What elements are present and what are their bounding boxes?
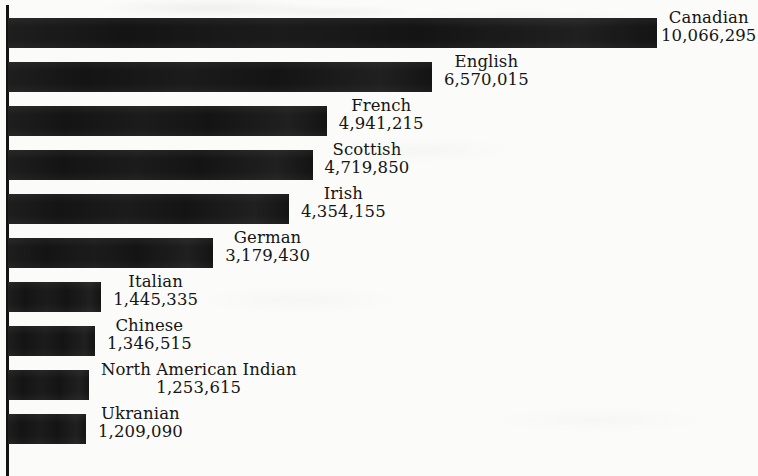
bar-value-label: 1,209,090 bbox=[98, 423, 183, 441]
bar-value-label: 10,066,295 bbox=[661, 27, 756, 45]
bar-category-label: English bbox=[444, 53, 529, 71]
bar bbox=[8, 370, 89, 400]
bar-label-group: Scottish4,719,850 bbox=[325, 141, 410, 178]
bar-row: German3,179,430 bbox=[0, 238, 758, 268]
bar-value-label: 1,346,515 bbox=[107, 335, 192, 353]
bar-row: Italian1,445,335 bbox=[0, 282, 758, 312]
bar bbox=[8, 282, 101, 312]
bar bbox=[8, 194, 289, 224]
bar-category-label: French bbox=[339, 97, 424, 115]
bar-label-group: French4,941,215 bbox=[339, 97, 424, 134]
bar-category-label: Irish bbox=[301, 185, 386, 203]
bar bbox=[8, 326, 95, 356]
bar-row: English6,570,015 bbox=[0, 62, 758, 92]
bar-category-label: German bbox=[225, 229, 310, 247]
bar-category-label: Italian bbox=[113, 273, 198, 291]
bar-value-label: 4,719,850 bbox=[325, 159, 410, 177]
bar-label-group: Irish4,354,155 bbox=[301, 185, 386, 222]
bar-value-label: 4,354,155 bbox=[301, 203, 386, 221]
bar bbox=[8, 106, 327, 136]
bar-category-label: Ukranian bbox=[98, 405, 183, 423]
bar-label-group: Italian1,445,335 bbox=[113, 273, 198, 310]
bar-label-group: English6,570,015 bbox=[444, 53, 529, 90]
bar-label-group: German3,179,430 bbox=[225, 229, 310, 266]
bar-value-label: 1,253,615 bbox=[101, 379, 297, 397]
bar-row: Chinese1,346,515 bbox=[0, 326, 758, 356]
bar bbox=[8, 150, 313, 180]
bar-label-group: Canadian10,066,295 bbox=[661, 9, 756, 46]
bar-chart: Canadian10,066,295English6,570,015French… bbox=[0, 0, 758, 476]
bar-row: French4,941,215 bbox=[0, 106, 758, 136]
bar bbox=[8, 62, 432, 92]
bar-category-label: Chinese bbox=[107, 317, 192, 335]
bar-value-label: 4,941,215 bbox=[339, 115, 424, 133]
bar-row: Canadian10,066,295 bbox=[0, 18, 758, 48]
bar-row: Ukranian1,209,090 bbox=[0, 414, 758, 444]
bar-category-label: Scottish bbox=[325, 141, 410, 159]
bar-label-group: Ukranian1,209,090 bbox=[98, 405, 183, 442]
bar-value-label: 6,570,015 bbox=[444, 71, 529, 89]
bar-row: Irish4,354,155 bbox=[0, 194, 758, 224]
bar-value-label: 3,179,430 bbox=[225, 247, 310, 265]
bar bbox=[8, 238, 213, 268]
bar-category-label: Canadian bbox=[661, 9, 756, 27]
plot-area: Canadian10,066,295English6,570,015French… bbox=[0, 0, 758, 476]
bar-category-label: North American Indian bbox=[101, 361, 297, 379]
bar-value-label: 1,445,335 bbox=[113, 291, 198, 309]
bar-row: Scottish4,719,850 bbox=[0, 150, 758, 180]
bar bbox=[8, 18, 657, 48]
bar-label-group: Chinese1,346,515 bbox=[107, 317, 192, 354]
bar bbox=[8, 414, 86, 444]
bar-label-group: North American Indian1,253,615 bbox=[101, 361, 297, 398]
bar-row: North American Indian1,253,615 bbox=[0, 370, 758, 400]
